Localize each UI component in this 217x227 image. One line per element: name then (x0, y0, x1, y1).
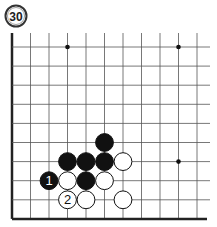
board-grid (12, 33, 210, 219)
star-point (176, 45, 181, 50)
black-stone (59, 153, 77, 171)
white-stone (114, 153, 132, 171)
black-stone (77, 172, 95, 190)
go-board: 12 (0, 0, 217, 227)
white-stone (77, 191, 95, 209)
white-stone (114, 191, 132, 209)
star-point (65, 45, 70, 50)
black-stone (96, 153, 114, 171)
move-number: 2 (64, 192, 71, 207)
white-stone (96, 172, 114, 190)
move-number: 1 (45, 173, 52, 188)
black-stone (96, 134, 114, 152)
star-point (176, 159, 181, 164)
black-stone (77, 153, 95, 171)
white-stone: 2 (59, 191, 77, 209)
black-stone: 1 (40, 172, 58, 190)
white-stone (59, 172, 77, 190)
